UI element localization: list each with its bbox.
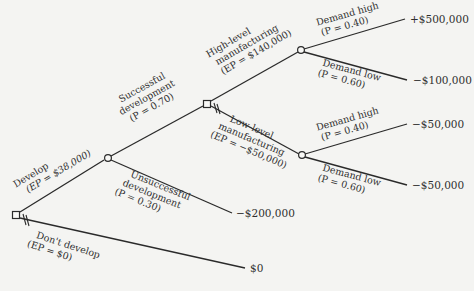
label-low-mfg-demand-high: Demand high (P = 0.40): [315, 104, 383, 143]
label-high-mfg-demand-low: Demand low (P = 0.60): [317, 56, 383, 93]
payoff-high-mfg-demand-high: +$500,000: [410, 13, 469, 25]
decision-tree-diagram: Develop (EP = $38,000) Don't develop (EP…: [0, 0, 474, 291]
label-successful-development: Successful development (P = 0.70): [111, 68, 181, 127]
decision-node-develop: [13, 212, 20, 219]
label-high-mfg-demand-high: Demand high (P = 0.40): [315, 0, 383, 38]
label-low-mfg-demand-low: Demand low (P = 0.60): [317, 161, 383, 198]
label-develop: Develop (EP = $38,000): [11, 138, 93, 199]
payoff-high-mfg-demand-low: −$100,000: [413, 74, 472, 86]
payoff-low-mfg-demand-high: −$50,000: [412, 118, 464, 130]
decision-node-manufacturing: [204, 101, 211, 108]
label-high-level-manufacturing: High-level manufacturing (EP = $140,000): [204, 8, 293, 79]
payoff-low-mfg-demand-low: −$50,000: [412, 179, 464, 191]
chance-node-development: [105, 155, 112, 162]
payoff-unsuccessful-development: −$200,000: [236, 207, 295, 219]
label-unsuccessful-development: Unsuccessful development (P = 0.30): [113, 165, 192, 222]
chance-node-low-level-demand: [299, 152, 306, 159]
chance-node-high-level-demand: [298, 47, 305, 54]
payoff-dont-develop: $0: [250, 262, 263, 274]
label-low-level-manufacturing: Low-level manufacturing (EP = −$50,000): [209, 108, 297, 170]
